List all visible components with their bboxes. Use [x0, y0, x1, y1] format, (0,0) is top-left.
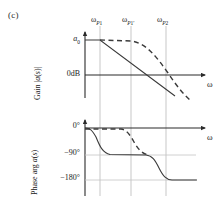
- phase-curve-compensated: [85, 129, 149, 155]
- gridlines: [100, 26, 166, 196]
- gain-curve-compensated: [100, 40, 191, 101]
- phase-curve-uncompensated: [85, 128, 197, 180]
- gain-plot: [85, 32, 205, 101]
- phase-plot: [85, 120, 205, 196]
- bode-plot-svg: [0, 0, 221, 200]
- bode-plot-figure: (c) Gain |a(s)| Phase arg a(s) a0 0dB 0°…: [0, 0, 221, 200]
- gain-curve-uncompensated: [85, 40, 175, 96]
